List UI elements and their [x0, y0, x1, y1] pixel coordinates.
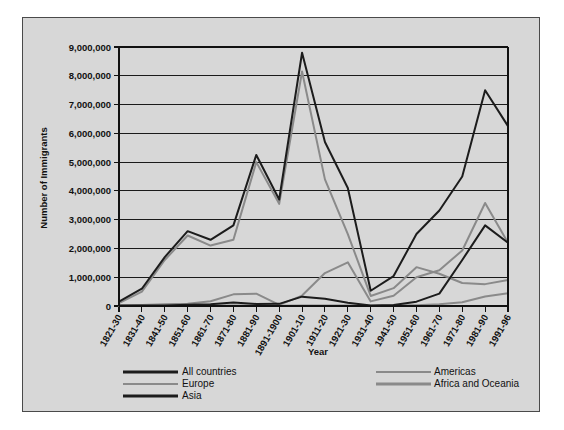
y-tick-label: 8,000,000: [69, 70, 111, 81]
y-tick-label: 7,000,000: [69, 99, 111, 110]
series-line: [119, 203, 508, 306]
x-tick-label: 1991-96: [486, 313, 513, 349]
immigration-line-chart: 9,000,0008,000,0007,000,0006,000,0005,00…: [0, 0, 564, 430]
y-tick-label: 1,000,000: [69, 272, 111, 283]
y-tick-label: 2,000,000: [69, 243, 111, 254]
legend-label: Africa and Oceania: [434, 378, 519, 389]
x-axis-ticks-group: 1821-301831-401841-501851-601861-701871-…: [97, 306, 513, 357]
y-tick-label: 3,000,000: [69, 214, 111, 225]
series-group: [119, 53, 508, 306]
y-tick-label: 4,000,000: [69, 185, 111, 196]
series-line: [119, 225, 508, 305]
y-tick-label: 5,000,000: [69, 157, 111, 168]
legend-label: Americas: [434, 366, 476, 377]
legend-group: All countriesEuropeAsiaAmericasAfrica an…: [123, 366, 519, 401]
x-axis-title: Year: [308, 346, 328, 357]
y-axis-title: Number of Immigrants: [38, 127, 49, 228]
y-axis-ticks-group: 9,000,0008,000,0007,000,0006,000,0005,00…: [69, 42, 111, 312]
y-tick-label: 0: [106, 301, 111, 312]
legend-label: Asia: [182, 390, 202, 401]
y-tick-label: 9,000,000: [69, 42, 111, 53]
y-tick-label: 6,000,000: [69, 128, 111, 139]
legend-label: Europe: [182, 378, 215, 389]
legend-label: All countries: [182, 366, 236, 377]
axis-lines-group: [119, 47, 508, 306]
series-line: [119, 71, 508, 303]
chart-figure: 9,000,0008,000,0007,000,0006,000,0005,00…: [0, 0, 564, 430]
series-line: [119, 53, 508, 302]
